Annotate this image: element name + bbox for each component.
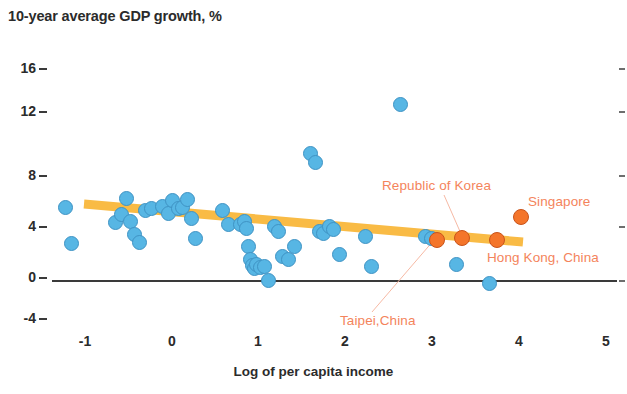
annotation-taipei-china: Taipei,China bbox=[340, 313, 416, 328]
data-point bbox=[332, 247, 347, 262]
data-point bbox=[257, 259, 272, 274]
chart-title: 10-year average GDP growth, % bbox=[8, 8, 222, 24]
y-tick-label-16: 16 bbox=[2, 60, 36, 76]
x-tick-label-0: 0 bbox=[157, 333, 187, 349]
annotation-republic-of-korea: Republic of Korea bbox=[382, 178, 491, 193]
y-tick-dash-0 bbox=[39, 277, 47, 279]
x-tick-label-3: 3 bbox=[417, 333, 447, 349]
x-tick-label-2: 2 bbox=[330, 333, 360, 349]
x-tick-label-1: 1 bbox=[243, 333, 273, 349]
y-tick-label-4: 4 bbox=[2, 218, 36, 234]
data-point bbox=[64, 236, 79, 251]
y-tick-dash-8 bbox=[39, 175, 47, 177]
data-point bbox=[482, 276, 497, 291]
data-point bbox=[281, 252, 296, 267]
right-tick-4 bbox=[619, 226, 625, 228]
annotation-singapore: Singapore bbox=[528, 194, 590, 209]
annotation-hong-kong-china: Hong Kong, China bbox=[487, 250, 599, 265]
right-tick-16 bbox=[619, 68, 625, 70]
data-point bbox=[271, 224, 286, 239]
data-point-singapore bbox=[513, 209, 529, 225]
data-point bbox=[58, 200, 73, 215]
data-point bbox=[287, 239, 302, 254]
data-point bbox=[364, 259, 379, 274]
y-tick-dash-4 bbox=[39, 226, 47, 228]
right-tick-12 bbox=[619, 111, 625, 113]
y-tick-label-8: 8 bbox=[2, 167, 36, 183]
data-point bbox=[449, 257, 464, 272]
data-point-taipei bbox=[429, 232, 445, 248]
data-point-hongkong bbox=[489, 232, 505, 248]
data-point bbox=[188, 231, 203, 246]
data-point bbox=[326, 222, 341, 237]
y-tick-label-0: 0 bbox=[2, 269, 36, 285]
x-axis-line bbox=[52, 280, 617, 282]
x-tick-label-neg1: -1 bbox=[70, 333, 100, 349]
y-tick-label-12: 12 bbox=[2, 103, 36, 119]
data-point bbox=[180, 192, 195, 207]
y-tick-dash-16 bbox=[39, 68, 47, 70]
data-point bbox=[119, 191, 134, 206]
y-tick-dash-12 bbox=[39, 111, 47, 113]
right-tick-0 bbox=[619, 280, 625, 282]
data-point bbox=[261, 273, 276, 288]
y-tick-label-neg4: -4 bbox=[2, 310, 36, 326]
x-tick-label-5: 5 bbox=[591, 333, 621, 349]
x-tick-label-4: 4 bbox=[504, 333, 534, 349]
leader-line-taipei bbox=[372, 240, 434, 312]
data-point bbox=[215, 203, 230, 218]
data-point bbox=[184, 211, 199, 226]
data-point-korea bbox=[454, 230, 470, 246]
chart-root: 10-year average GDP growth, % 16 12 8 4 … bbox=[0, 0, 627, 394]
right-tick-8 bbox=[619, 175, 625, 177]
data-point bbox=[358, 229, 373, 244]
data-point bbox=[132, 235, 147, 250]
data-point bbox=[239, 221, 254, 236]
data-point bbox=[393, 97, 408, 112]
data-point bbox=[308, 155, 323, 170]
x-axis-title: Log of per capita income bbox=[0, 364, 627, 379]
y-tick-dash-neg4 bbox=[39, 318, 47, 320]
